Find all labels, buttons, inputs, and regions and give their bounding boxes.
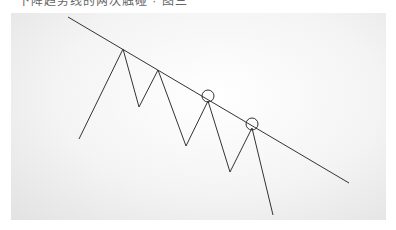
trendline: [68, 17, 349, 183]
trendline-diagram: [0, 0, 396, 230]
price-zigzag: [79, 49, 273, 215]
